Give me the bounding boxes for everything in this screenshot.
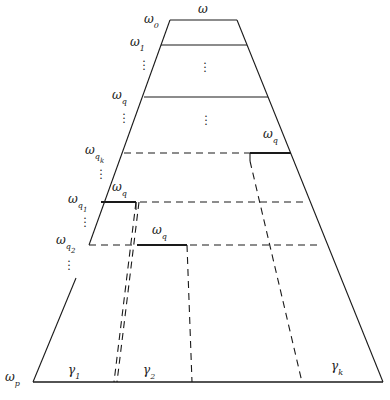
label-omega-q-mid-lower: ωq — [152, 224, 167, 236]
center-ellipsis-lower: ... — [203, 112, 209, 124]
vertical-divider-gamma2 — [187, 245, 192, 382]
diagram-canvas: ω ω0 ω1 ωq ωqk ωq ωq ωq1 ωq2 ωq ωp γ1 γ2… — [0, 0, 390, 400]
left-ellipsis-between-omega1-omegaq: ... — [141, 57, 147, 69]
label-omega-p: ωp — [5, 371, 20, 383]
label-omega-q-mid-upper: ωq — [112, 181, 127, 193]
center-ellipsis-upper: ... — [202, 59, 208, 71]
trapezoid-partition-svg — [0, 0, 390, 400]
label-omega-0: ω0 — [144, 13, 159, 25]
left-ellipsis-below-omegaq2: ... — [66, 257, 72, 269]
left-ellipsis-between-omegaq1-omegaq2: ... — [82, 214, 88, 226]
left-edge-upper — [89, 20, 170, 245]
vertical-divider-gammak — [250, 161, 302, 382]
label-omega-top: ω — [198, 3, 208, 15]
label-omega-q-right: ωq — [263, 128, 278, 140]
label-omega-1: ω1 — [130, 36, 145, 48]
vertical-divider-gamma1-b — [117, 202, 139, 382]
vertical-divider-gamma1-a — [114, 202, 136, 382]
label-omega-q1: ωq1 — [68, 193, 87, 207]
label-omega-q2: ωq2 — [56, 234, 75, 248]
label-omega-qk: ωqk — [85, 144, 104, 158]
left-ellipsis-between-omegaq-omegaqk: ... — [121, 110, 127, 122]
label-gamma-k: γk — [331, 360, 343, 372]
label-gamma-2: γ2 — [143, 364, 155, 376]
label-gamma-1: γ1 — [68, 364, 80, 376]
left-ellipsis-between-omegaqk-omegaq1: ... — [98, 166, 104, 178]
label-omega-q-left: ωq — [112, 89, 127, 101]
